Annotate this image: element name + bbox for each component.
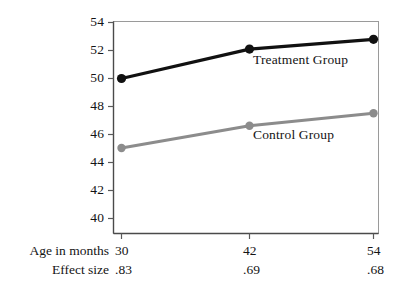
control-group-label: Control Group (253, 127, 334, 143)
y-tick-label-40: 40 (78, 210, 104, 226)
control-group-point (117, 144, 125, 152)
y-tick-label-42: 42 (78, 182, 104, 198)
effect-size-value-54mo: .68 (367, 262, 384, 278)
effect-size-label: Effect size (12, 262, 109, 278)
treatment-group-point (117, 74, 126, 83)
effect-size-value-30mo: .83 (115, 262, 132, 278)
x-tick-label-30: 30 (115, 243, 129, 259)
control-group-point (369, 109, 377, 117)
y-tick-label-54: 54 (78, 14, 104, 30)
y-tick-label-44: 44 (78, 154, 104, 170)
x-tick-label-42: 42 (243, 243, 257, 259)
y-tick-label-50: 50 (78, 70, 104, 86)
y-tick-marks (108, 23, 114, 219)
effect-size-value-42mo: .69 (243, 262, 260, 278)
x-tick-label-54: 54 (367, 243, 381, 259)
treatment-group-point (369, 35, 378, 44)
y-tick-label-46: 46 (78, 126, 104, 142)
chart-figure: 54 52 50 48 46 44 42 40 Treatment Group … (0, 0, 396, 292)
y-tick-label-48: 48 (78, 98, 104, 114)
treatment-group-label: Treatment Group (253, 52, 348, 68)
y-tick-label-52: 52 (78, 42, 104, 58)
age-in-months-label: Age in months (12, 243, 109, 259)
x-tick-marks (122, 234, 374, 240)
